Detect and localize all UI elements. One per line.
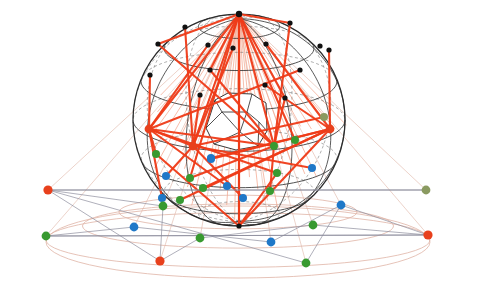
sphere-point-blue[interactable] [158,194,166,202]
ground-point-green[interactable] [309,221,318,230]
sphere-point-blue[interactable] [239,194,247,202]
lattice-node[interactable] [236,11,242,17]
sphere-point-green[interactable] [270,142,278,150]
ground-chord [48,190,160,261]
sphere-point-green[interactable] [186,174,194,182]
lattice-node[interactable] [205,42,210,47]
spherical-configuration-plot [0,0,477,286]
sphere-point-green[interactable] [273,169,281,177]
sphere-point-green[interactable] [199,184,207,192]
lattice-node[interactable] [317,43,322,48]
sphere-point-olive[interactable] [320,113,328,121]
lattice-node[interactable] [287,20,292,25]
sphere-point-green[interactable] [176,196,184,204]
lattice-node[interactable] [207,67,212,72]
figure-root [0,0,477,286]
chord-ray [149,75,150,129]
ground-point-green[interactable] [159,202,168,211]
ground-point-red[interactable] [423,230,432,239]
ground-point-green[interactable] [42,232,51,241]
sphere-point-green[interactable] [152,150,160,158]
ground-chord [46,227,134,236]
ground-point-olive[interactable] [422,186,431,195]
lattice-node[interactable] [230,45,235,50]
ground-point-blue[interactable] [267,238,276,247]
lattice-node[interactable] [197,92,202,97]
chord-rays [149,14,330,226]
chord-ray [270,146,274,191]
lattice-node[interactable] [297,67,302,72]
lattice-node[interactable] [326,47,331,52]
ground-point-blue[interactable] [337,201,346,210]
ground-point-blue[interactable] [130,223,139,232]
ground-point-green[interactable] [302,259,311,268]
sphere-point-green[interactable] [266,187,274,195]
sphere-point-red[interactable] [189,142,198,151]
apex-fan-line [239,14,426,190]
ground-chord [271,205,341,242]
ground-chord [46,235,428,236]
lattice-node[interactable] [182,24,187,29]
sphere-point-blue[interactable] [223,182,231,190]
lattice-node[interactable] [262,82,267,87]
sphere-point-red[interactable] [326,125,335,134]
ground-chord [200,225,313,238]
ground-chord [306,205,341,263]
chord-ray [329,50,330,129]
lattice-node[interactable] [282,95,287,100]
sphere-point-blue[interactable] [308,164,316,172]
sphere-point-green[interactable] [291,136,299,144]
ground-point-green[interactable] [196,234,205,243]
ground-point-red[interactable] [43,185,52,194]
sphere-point-blue[interactable] [207,154,215,162]
lattice-node[interactable] [263,41,268,46]
lattice-node[interactable] [147,72,152,77]
sphere-point-red[interactable] [145,125,154,134]
ground-chord [48,190,163,206]
ground-point-red[interactable] [155,256,164,265]
lattice-node[interactable] [236,223,241,228]
lattice-node[interactable] [155,41,160,46]
sphere-point-blue[interactable] [162,172,170,180]
